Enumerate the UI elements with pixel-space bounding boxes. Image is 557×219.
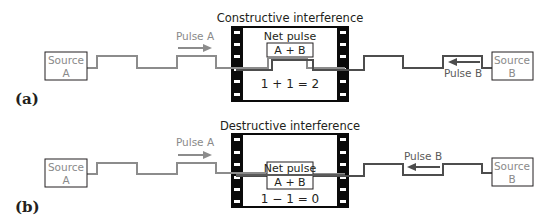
- pulse-a-label-b: Pulse A: [176, 136, 215, 148]
- equation-b: 1 − 1 = 0: [261, 192, 319, 206]
- source-a-label-line1-a: Source: [48, 54, 84, 66]
- panel-b: Destructive interference Net pulse A + B…: [15, 119, 533, 216]
- pulse-b-label-a: Pulse B: [444, 67, 482, 79]
- title-destructive: Destructive interference: [220, 119, 360, 133]
- source-a-label-line1-b: Source: [48, 161, 84, 173]
- source-b-label-line2-a: B: [508, 67, 515, 79]
- panel-label-a: (a): [15, 90, 39, 108]
- arrow-left-icon: [407, 163, 440, 171]
- panel-label-b: (b): [15, 198, 40, 216]
- arrow-right-icon: [178, 151, 212, 159]
- panel-a: Constructive interference Net pulse A + …: [15, 11, 533, 108]
- net-pulse-value-a: A + B: [274, 44, 305, 57]
- source-a-label-line2-b: A: [62, 174, 70, 186]
- source-b-label-line1-b: Source: [494, 160, 530, 172]
- net-pulse-value-b: A + B: [274, 176, 305, 189]
- interference-diagram: Constructive interference Net pulse A + …: [0, 0, 557, 219]
- arrow-right-icon: [178, 44, 212, 52]
- pulse-a-label-a: Pulse A: [176, 30, 215, 42]
- source-a-label-line2-a: A: [62, 67, 70, 79]
- pulse-b-label-b: Pulse B: [404, 150, 442, 162]
- net-pulse-label-b: Net pulse: [264, 162, 317, 175]
- title-constructive: Constructive interference: [217, 11, 364, 25]
- net-pulse-label-a: Net pulse: [264, 30, 317, 43]
- equation-a: 1 + 1 = 2: [261, 77, 319, 91]
- source-b-label-line1-a: Source: [494, 54, 530, 66]
- arrow-left-icon: [448, 58, 480, 66]
- wave-a-a: [87, 56, 345, 68]
- source-b-label-line2-b: B: [508, 173, 515, 185]
